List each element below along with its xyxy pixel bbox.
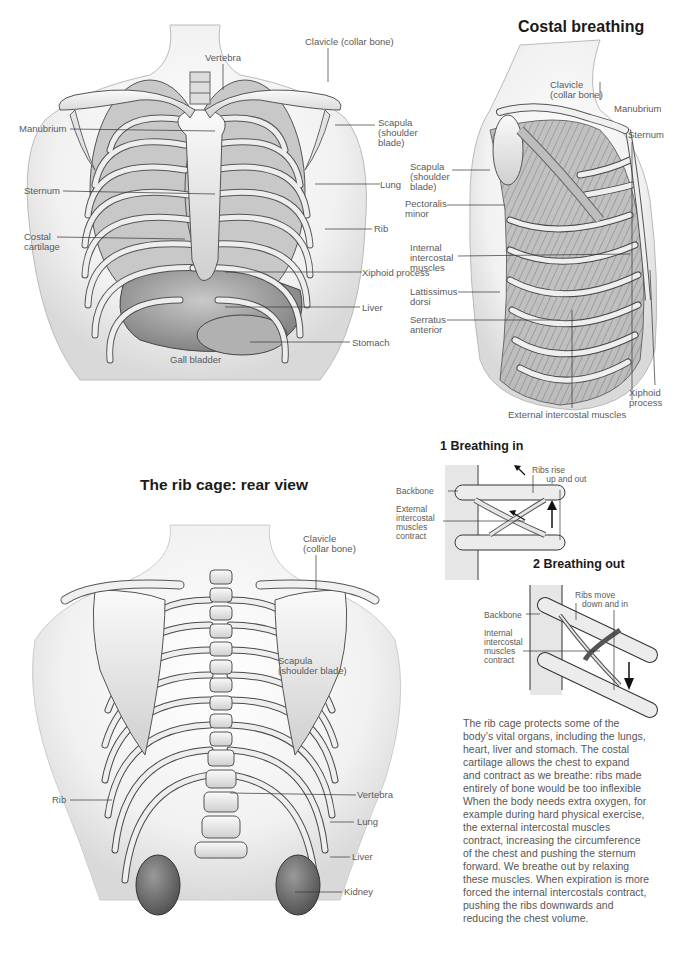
label-sternum: Sternum bbox=[24, 186, 60, 196]
label-rear-scapula: Scapula (shoulder blade) bbox=[278, 656, 347, 676]
breathing-in-title: 1 Breathing in bbox=[440, 439, 523, 453]
label-side-sternum: Sternum bbox=[628, 130, 664, 140]
body-text-line: heart, liver and stomach. The costal bbox=[463, 743, 683, 756]
body-text-line: forward. We breathe out by relaxing bbox=[463, 860, 683, 873]
label-serratus-anterior: Serratus anterior bbox=[410, 315, 446, 335]
body-text-line: of the chest and pushing the sternum bbox=[463, 847, 683, 860]
body-text-line: entirely of bone would be too inflexible bbox=[463, 782, 683, 795]
front-rib-cage-illustration bbox=[27, 25, 380, 380]
body-text-line: these muscles. When expiration is more bbox=[463, 873, 683, 886]
body-text-line: contract, increasing the circumference bbox=[463, 834, 683, 847]
label-lung: Lung bbox=[380, 180, 401, 190]
label-rear-kidney: Kidney bbox=[344, 887, 373, 897]
label-external-intercostal: External intercostal muscles bbox=[508, 410, 626, 420]
label-internal-intercostal: Internal intercostal muscles bbox=[410, 243, 453, 273]
label-side-clavicle: Clavicle (collar bone) bbox=[550, 80, 603, 100]
label-clavicle: Clavicle (collar bone) bbox=[305, 37, 394, 47]
label-rear-liver: Liver bbox=[352, 852, 373, 862]
label-ribs-rise: Ribs rise up and out bbox=[532, 466, 586, 484]
label-out-backbone: Backbone bbox=[484, 610, 522, 620]
label-in-backbone: Backbone bbox=[396, 486, 434, 496]
rear-view-title: The rib cage: rear view bbox=[140, 476, 308, 494]
label-ribs-move: Ribs move down and in bbox=[575, 591, 628, 609]
label-side-xiphoid: Xiphoid process bbox=[629, 388, 662, 408]
rear-rib-cage-illustration bbox=[33, 525, 401, 915]
label-side-manubrium: Manubrium bbox=[614, 104, 662, 114]
label-liver: Liver bbox=[362, 303, 383, 313]
label-manubrium: Manubrium bbox=[19, 124, 67, 134]
label-vertebra: Vertebra bbox=[205, 53, 241, 63]
label-costal-cartilage: Costal cartilage bbox=[24, 232, 60, 252]
breathing-out-title: 2 Breathing out bbox=[533, 557, 625, 571]
body-text-line: cartilage allows the chest to expand bbox=[463, 756, 683, 769]
body-text-paragraph: The rib cage protects some of the body’s… bbox=[463, 717, 683, 925]
label-internal-intercostal-contract: Internal intercostal muscles contract bbox=[484, 629, 523, 665]
body-text-line: forced the internal intercostals contrac… bbox=[463, 886, 683, 899]
label-rear-clavicle: Clavicle (collar bone) bbox=[303, 534, 356, 554]
body-text-line: and contract as we breathe: ribs made bbox=[463, 769, 683, 782]
body-text-line: When the body needs extra oxygen, for bbox=[463, 795, 683, 808]
label-pectoralis-minor: Pectoralis minor bbox=[405, 199, 447, 219]
body-text-line: the external intercostal muscles bbox=[463, 821, 683, 834]
label-scapula: Scapula (shoulder blade) bbox=[378, 118, 418, 148]
costal-breathing-title: Costal breathing bbox=[518, 18, 644, 36]
label-stomach: Stomach bbox=[352, 338, 390, 348]
body-text-line: pushing the ribs downwards and bbox=[463, 899, 683, 912]
body-text-line: example during hard physical exercise, bbox=[463, 808, 683, 821]
label-rear-lung: Lung bbox=[357, 817, 378, 827]
label-rear-vertebra: Vertebra bbox=[357, 790, 393, 800]
body-text-line: reducing the chest volume. bbox=[463, 912, 683, 925]
label-rib: Rib bbox=[374, 224, 388, 234]
body-text-line: The rib cage protects some of the bbox=[463, 717, 683, 730]
label-side-scapula: Scapula (shoulder blade) bbox=[410, 162, 450, 192]
label-rear-rib: Rib bbox=[52, 795, 66, 805]
body-text-line: body’s vital organs, including the lungs… bbox=[463, 730, 683, 743]
label-external-intercostal-contract: External intercostal muscles contract bbox=[396, 505, 435, 541]
label-gall-bladder: Gall bladder bbox=[170, 355, 221, 365]
label-lattissimus-dorsi: Lattissimus dorsi bbox=[410, 287, 458, 307]
